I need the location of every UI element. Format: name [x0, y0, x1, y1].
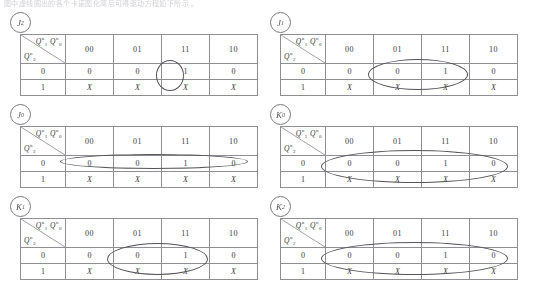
corner-top-label: Qn1 Qn0	[36, 128, 62, 139]
row-label-1: 1	[281, 172, 326, 188]
table-row: 0 0 0 1 0	[281, 64, 518, 80]
cell-r1-c01: X	[374, 80, 422, 96]
cell-r0-c00: 0	[326, 156, 374, 172]
kmap-table-wrap-k2: Qn1 Qn0 Qn2 00 01 11 10 0 0 0 1 0 1	[280, 218, 506, 280]
cell-r0-c00: 0	[66, 156, 114, 172]
column-header-01: 01	[374, 127, 422, 156]
cell-r1-c10: X	[470, 172, 518, 188]
cell-r0-c01: 0	[374, 64, 422, 80]
table-header-row: Qn1 Qn0 Qn2 00 01 11 10	[21, 35, 258, 64]
table-row: 1 X X X X	[21, 80, 258, 96]
column-header-10: 10	[470, 35, 518, 64]
row-label-0: 0	[281, 64, 326, 80]
cell-r1-c11: X	[162, 264, 210, 280]
table-row: 0 0 0 1 0	[281, 156, 518, 172]
cell-r0-c11: 1	[162, 156, 210, 172]
kmap-block-k2: K2 Qn1 Qn0 Qn2 00 01 11 10 0 0 0	[266, 196, 514, 280]
kmap-corner-cell: Qn1 Qn0 Qn2	[21, 219, 66, 248]
column-header-11: 11	[422, 219, 470, 248]
column-header-11: 11	[162, 35, 210, 64]
corner-top-label: Qn1 Qn0	[36, 36, 62, 47]
column-header-00: 00	[326, 127, 374, 156]
cell-r1-c10: X	[470, 80, 518, 96]
cell-r0-c10: 0	[470, 156, 518, 172]
table-header-row: Qn1 Qn0 Qn2 00 01 11 10	[281, 35, 518, 64]
cell-r1-c01: X	[374, 264, 422, 280]
kmap-block-j2: J2 Qn1 Qn0 Qn2 00 01 11 10 0 0 0	[6, 12, 254, 96]
cell-r1-c11: X	[422, 264, 470, 280]
row-label-1: 1	[281, 264, 326, 280]
row-label-0: 0	[21, 156, 66, 172]
corner-top-label: Qn1 Qn0	[296, 128, 322, 139]
kmap-label-k0: K0	[270, 104, 291, 125]
table-row: 0 0 0 1 0	[281, 248, 518, 264]
kmap-table-wrap-j1: Qn1 Qn0 Qn2 00 01 11 10 0 0 0 1 0 1	[280, 34, 506, 96]
cell-r0-c10: 0	[470, 64, 518, 80]
kmap-table-wrap-j0: Qn1 Qn0 Qn2 00 01 11 10 0 0 0 1 0 1	[20, 126, 246, 188]
cell-r1-c11: X	[162, 80, 210, 96]
corner-top-label: Qn1 Qn0	[296, 36, 322, 47]
cell-r0-c01: 0	[374, 156, 422, 172]
column-header-00: 00	[66, 127, 114, 156]
table-header-row: Qn1 Qn0 Qn2 00 01 11 10	[281, 219, 518, 248]
kmap-table-wrap-k0: Qn1 Qn0 Qn2 00 01 11 10 0 0 0 1 0 1	[280, 126, 506, 188]
table-row: 1 X X X X	[281, 80, 518, 96]
cell-r0-c10: 0	[210, 64, 258, 80]
table-row: 1 X X X X	[281, 172, 518, 188]
kmap-table-j2: Qn1 Qn0 Qn2 00 01 11 10 0 0 0 1 0 1	[20, 34, 258, 96]
table-row: 1 X X X X	[21, 172, 258, 188]
column-header-01: 01	[374, 219, 422, 248]
cell-r1-c10: X	[470, 264, 518, 280]
cell-r0-c11: 1	[422, 64, 470, 80]
kmap-block-k0: K0 Qn1 Qn0 Qn2 00 01 11 10 0 0 0	[266, 104, 514, 188]
column-header-11: 11	[162, 219, 210, 248]
cell-r1-c11: X	[422, 172, 470, 188]
column-header-11: 11	[422, 127, 470, 156]
cell-r1-c01: X	[114, 80, 162, 96]
column-header-01: 01	[114, 35, 162, 64]
row-label-1: 1	[21, 172, 66, 188]
column-header-11: 11	[162, 127, 210, 156]
column-header-01: 01	[374, 35, 422, 64]
table-row: 1 X X X X	[21, 264, 258, 280]
corner-bottom-label: Qn2	[24, 143, 36, 154]
column-header-01: 01	[114, 219, 162, 248]
kmap-table-wrap-j2: Qn1 Qn0 Qn2 00 01 11 10 0 0 0 1 0 1	[20, 34, 246, 96]
kmap-label-k1: K1	[10, 196, 31, 217]
cell-r1-c11: X	[422, 80, 470, 96]
cell-r0-c01: 0	[114, 64, 162, 80]
kmap-label-subscript: 0	[21, 112, 24, 118]
kmap-label-subscript: 2	[21, 20, 24, 26]
cell-r0-c01: 0	[114, 248, 162, 264]
figure-caption-text: 图中虚线圈出的各个卡诺图化简后可得驱动方程如下所示 。	[4, 0, 219, 9]
kmap-label-subscript: 1	[22, 204, 25, 210]
cell-r1-c00: X	[326, 172, 374, 188]
row-label-0: 0	[281, 248, 326, 264]
row-label-0: 0	[281, 156, 326, 172]
cell-r0-c11: 1	[162, 64, 210, 80]
corner-bottom-label: Qn2	[284, 51, 296, 62]
kmap-corner-cell: Qn1 Qn0 Qn2	[21, 127, 66, 156]
cell-r0-c00: 0	[66, 64, 114, 80]
cell-r1-c00: X	[326, 80, 374, 96]
cell-r1-c11: X	[162, 172, 210, 188]
kmap-block-j1: J1 Qn1 Qn0 Qn2 00 01 11 10 0 0 0	[266, 12, 514, 96]
corner-bottom-label: Qn2	[24, 51, 36, 62]
corner-top-label: Qn1 Qn0	[296, 220, 322, 231]
cell-r1-c01: X	[374, 172, 422, 188]
kmap-table-k0: Qn1 Qn0 Qn2 00 01 11 10 0 0 0 1 0 1	[280, 126, 518, 188]
cell-r1-c10: X	[210, 264, 258, 280]
figure-caption: 图中虚线圈出的各个卡诺图化简后可得驱动方程如下所示 。	[4, 0, 219, 10]
corner-top-label: Qn1 Qn0	[36, 220, 62, 231]
kmap-table-wrap-k1: Qn1 Qn0 Qn2 00 01 11 10 0 0 0 1 0 1	[20, 218, 246, 280]
table-row: 1 X X X X	[281, 264, 518, 280]
cell-r0-c10: 0	[210, 156, 258, 172]
table-header-row: Qn1 Qn0 Qn2 00 01 11 10	[21, 219, 258, 248]
kmap-label-j0: J0	[10, 104, 31, 125]
column-header-01: 01	[114, 127, 162, 156]
cell-r0-c01: 0	[114, 156, 162, 172]
cell-r0-c01: 0	[374, 248, 422, 264]
row-label-1: 1	[21, 264, 66, 280]
cell-r0-c10: 0	[470, 248, 518, 264]
cell-r1-c10: X	[210, 172, 258, 188]
